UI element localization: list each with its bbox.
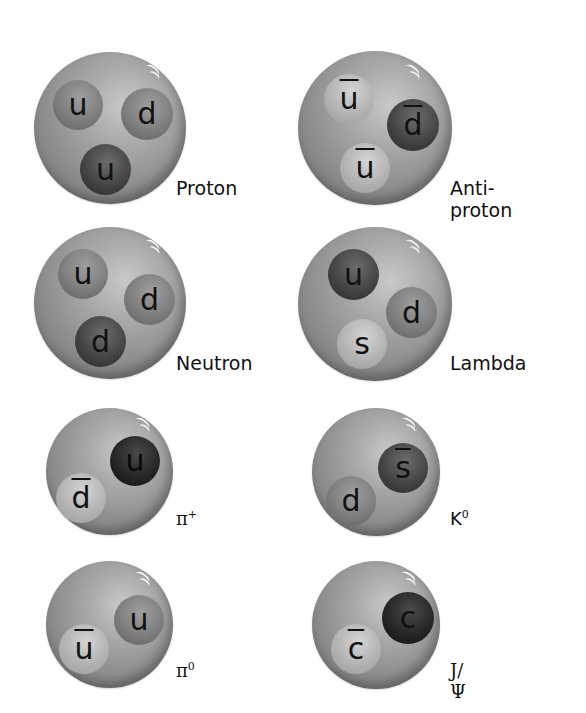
anti-down-quark: d: [56, 473, 106, 523]
anti-strange-quark: s: [378, 443, 428, 493]
anti-up-quark: u: [324, 74, 374, 124]
anti-charm-quark: c: [331, 624, 381, 674]
down-quark: d: [326, 476, 376, 526]
anti-up-quark: u: [340, 143, 390, 193]
antiproton-label: Anti-proton: [450, 177, 512, 221]
charm-quark: c: [382, 592, 434, 644]
down-quark: d: [124, 274, 175, 325]
up-quark: u: [114, 595, 164, 645]
up-quark: u: [110, 436, 160, 486]
jpsi-label: J/Ψ: [450, 660, 466, 702]
neutron-label: Neutron: [176, 352, 252, 374]
down-quark: d: [121, 88, 173, 140]
up-quark: u: [328, 249, 379, 300]
lambda-label: Lambda: [450, 352, 527, 374]
down-quark: d: [75, 316, 126, 367]
up-quark: u: [58, 249, 108, 299]
anti-down-quark: d: [387, 99, 439, 151]
strange-quark: s: [337, 319, 387, 369]
k0-label: K0: [450, 508, 469, 529]
down-quark: d: [386, 287, 437, 338]
anti-up-quark: u: [59, 624, 109, 674]
up-quark: u: [80, 144, 131, 195]
pi-zero-label: π0: [176, 660, 195, 681]
up-quark: u: [53, 80, 103, 130]
pi-plus-label: π+: [176, 508, 197, 529]
proton-label: Proton: [176, 177, 237, 199]
